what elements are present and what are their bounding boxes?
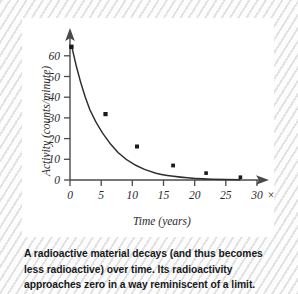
data-point bbox=[135, 145, 139, 149]
decay-curve bbox=[72, 48, 240, 180]
data-point bbox=[239, 175, 243, 179]
y-tick-label: 60 bbox=[49, 50, 61, 62]
x-tick-label: 30 bbox=[250, 189, 263, 201]
x-tick-label: 5 bbox=[98, 189, 104, 201]
x-tick-labels: 0 5 10 15 20 25 30 bbox=[67, 189, 263, 201]
data-point bbox=[103, 112, 107, 116]
x-tick-label: 0 bbox=[67, 189, 73, 201]
caption-line: less radioactive) over time. Its radioac… bbox=[24, 262, 286, 278]
chart-panel: 0 10 20 30 40 50 60 0 5 bbox=[22, 18, 274, 237]
caption-line: approaches zero in a way reminiscent of … bbox=[24, 277, 286, 293]
x-tick-label: 15 bbox=[158, 189, 170, 201]
x-axis-title: Time (years) bbox=[133, 215, 191, 228]
caption-line: A radioactive material decays (and thus … bbox=[24, 246, 286, 262]
x-tick-label: 20 bbox=[189, 189, 201, 201]
y-tick-marks bbox=[64, 56, 70, 180]
data-point-markers bbox=[69, 45, 242, 179]
x-axis-multiplier: × 10 3 bbox=[267, 187, 274, 202]
x-tick-label: 10 bbox=[127, 189, 139, 201]
data-point bbox=[69, 45, 73, 49]
x-multiplier-base: × 10 bbox=[267, 189, 274, 201]
decay-chart: 0 10 20 30 40 50 60 0 5 bbox=[22, 18, 274, 237]
x-tick-label: 25 bbox=[220, 189, 232, 201]
x-tick-marks bbox=[70, 180, 257, 186]
y-axis-title: Activity (counts/minute) bbox=[40, 66, 53, 177]
y-tick-label: 0 bbox=[54, 174, 60, 186]
data-point bbox=[204, 171, 208, 175]
page-background: 0 10 20 30 40 50 60 0 5 bbox=[0, 0, 298, 294]
figure-caption: A radioactive material decays (and thus … bbox=[24, 246, 286, 293]
data-point bbox=[171, 164, 175, 168]
